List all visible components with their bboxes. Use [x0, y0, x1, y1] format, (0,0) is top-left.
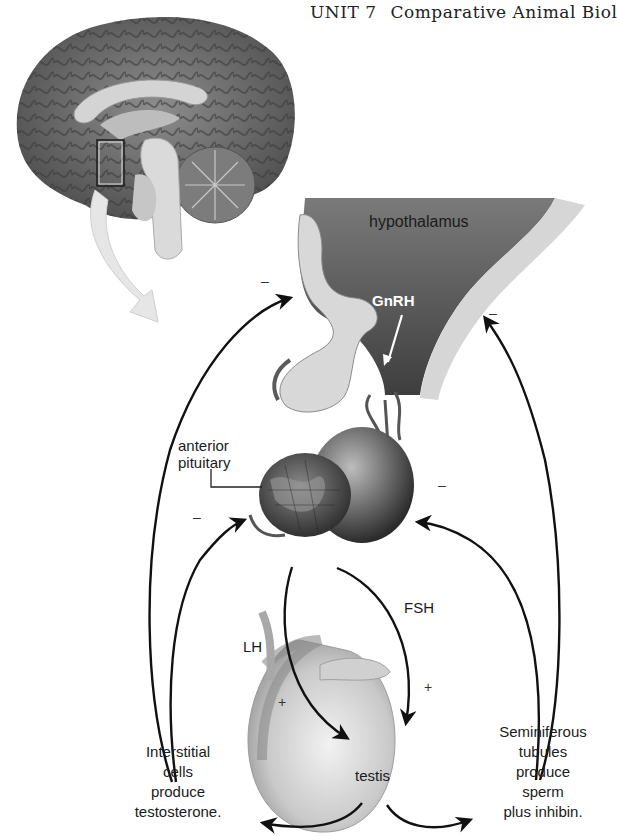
hypothalamus-pituitary-illustration — [250, 198, 585, 543]
label-anterior-pituitary: anterior pituitary — [178, 437, 231, 471]
sign-negative-hypothalamus-left: – — [261, 273, 269, 289]
label-seminiferous-tubules: Seminiferous tubules produce sperm plus … — [478, 722, 608, 822]
sign-negative-hypothalamus-right: – — [489, 305, 497, 321]
sign-positive-fsh: + — [424, 679, 432, 695]
anterior-pituitary-leader-line — [211, 469, 262, 487]
brain-illustration — [17, 17, 295, 322]
label-hypothalamus: hypothalamus — [369, 213, 469, 230]
testis-illustration — [248, 612, 395, 832]
label-testis: testis — [355, 767, 390, 784]
sign-positive-lh: + — [278, 694, 286, 710]
arrow-testis-to-seminiferous — [387, 805, 470, 827]
label-fsh: FSH — [404, 599, 434, 616]
label-interstitial-cells: Interstitial cells produce testosterone. — [128, 742, 228, 822]
sign-negative-pituitary-left: – — [193, 509, 201, 525]
label-lh: LH — [243, 638, 262, 655]
arrow-inhibin-to-hypothalamus — [485, 318, 559, 780]
label-gnrh: GnRH — [372, 292, 415, 309]
sign-negative-pituitary-right: – — [438, 477, 446, 493]
